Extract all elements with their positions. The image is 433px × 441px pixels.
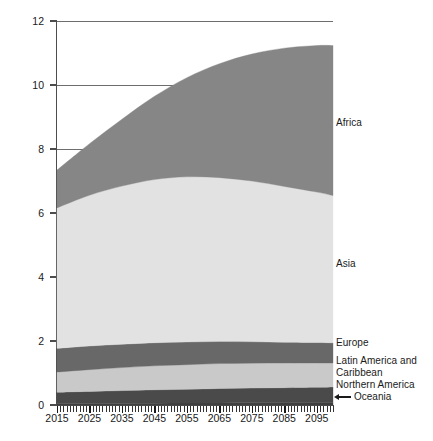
series-label-latin-america-and-caribbean: Latin America and Caribbean [336, 355, 417, 378]
x-axis-label-2095: 2095 [305, 412, 328, 424]
x-tick-2058 [197, 406, 198, 412]
x-tick-2066 [223, 406, 224, 412]
x-axis-label-2015: 2015 [45, 412, 68, 424]
x-tick-2060 [203, 406, 204, 412]
y-tick-2 [50, 340, 57, 341]
x-tick-2034 [119, 406, 120, 412]
x-tick-2077 [258, 406, 259, 412]
x-tick-2024 [86, 406, 87, 412]
x-tick-2063 [213, 406, 214, 412]
x-tick-2068 [229, 406, 230, 412]
x-tick-2093 [310, 406, 311, 412]
x-tick-2100 [333, 406, 334, 412]
x-tick-2027 [96, 406, 97, 412]
x-tick-2031 [109, 406, 110, 412]
x-tick-2039 [135, 406, 136, 412]
x-tick-2036 [125, 406, 126, 412]
x-tick-2056 [190, 406, 191, 412]
x-axis-label-2085: 2085 [273, 412, 296, 424]
x-tick-2061 [206, 406, 207, 412]
x-tick-2071 [239, 406, 240, 412]
x-tick-2038 [132, 406, 133, 412]
y-axis-label-12: 12 [32, 16, 44, 26]
x-tick-2049 [167, 406, 168, 412]
x-tick-2048 [164, 406, 165, 412]
x-tick-2037 [128, 406, 129, 412]
series-label-northern-america: Northern America [336, 379, 415, 391]
x-axis-label-2075: 2075 [240, 412, 263, 424]
y-tick-4 [50, 276, 57, 277]
series-label-oceania: Oceania [334, 391, 391, 403]
x-tick-2073 [245, 406, 246, 412]
x-tick-2094 [314, 406, 315, 412]
y-tick-6 [50, 212, 57, 213]
y-axis-label-6: 6 [38, 208, 44, 218]
y-axis-label-0: 0 [38, 400, 44, 410]
area-asia [57, 177, 333, 349]
x-tick-2070 [236, 406, 237, 412]
x-tick-2098 [327, 406, 328, 412]
x-tick-2018 [67, 406, 68, 412]
x-tick-2019 [70, 406, 71, 412]
x-tick-2042 [145, 406, 146, 412]
x-tick-2028 [99, 406, 100, 412]
x-tick-2069 [232, 406, 233, 412]
x-tick-2067 [226, 406, 227, 412]
y-axis-label-10: 10 [32, 80, 44, 90]
x-tick-2091 [304, 406, 305, 412]
series-label-africa: Africa [336, 117, 362, 129]
x-tick-2089 [297, 406, 298, 412]
x-tick-2088 [294, 406, 295, 412]
x-tick-2081 [271, 406, 272, 412]
x-tick-2074 [249, 406, 250, 412]
x-tick-2050 [171, 406, 172, 412]
x-tick-2033 [115, 406, 116, 412]
x-axis-label-2055: 2055 [175, 412, 198, 424]
x-tick-2087 [291, 406, 292, 412]
x-tick-2053 [180, 406, 181, 412]
x-tick-2043 [148, 406, 149, 412]
x-tick-2057 [193, 406, 194, 412]
series-label-europe: Europe [336, 337, 369, 349]
y-tick-8 [50, 148, 57, 149]
x-tick-2044 [151, 406, 152, 412]
y-axis-label-4: 4 [38, 272, 44, 282]
x-tick-2030 [106, 406, 107, 412]
x-tick-2016 [60, 406, 61, 412]
x-tick-2054 [184, 406, 185, 412]
x-tick-2084 [281, 406, 282, 412]
x-tick-2078 [262, 406, 263, 412]
x-tick-2046 [158, 406, 159, 412]
x-axis-label-2025: 2025 [78, 412, 101, 424]
x-tick-2072 [242, 406, 243, 412]
series-label-asia: Asia [336, 258, 356, 270]
y-tick-12 [50, 20, 57, 21]
series-label-oceania-text: Oceania [354, 391, 391, 403]
x-tick-2062 [210, 406, 211, 412]
x-tick-2076 [255, 406, 256, 412]
x-tick-2092 [307, 406, 308, 412]
x-tick-2059 [200, 406, 201, 412]
x-tick-2080 [268, 406, 269, 412]
x-tick-2017 [63, 406, 64, 412]
x-tick-2086 [288, 406, 289, 412]
x-tick-2064 [216, 406, 217, 412]
x-tick-2079 [265, 406, 266, 412]
y-tick-0 [50, 404, 57, 405]
x-axis-label-2065: 2065 [208, 412, 231, 424]
x-tick-2099 [330, 406, 331, 412]
x-tick-2041 [141, 406, 142, 412]
x-tick-2022 [80, 406, 81, 412]
x-tick-2026 [93, 406, 94, 412]
y-axis-label-2: 2 [38, 336, 44, 346]
stacked-area-series [57, 21, 333, 405]
x-axis-label-2035: 2035 [110, 412, 133, 424]
x-tick-2051 [174, 406, 175, 412]
x-tick-2047 [161, 406, 162, 412]
x-tick-2096 [320, 406, 321, 412]
left-arrow-icon [334, 393, 351, 400]
x-tick-2023 [83, 406, 84, 412]
y-tick-10 [50, 84, 57, 85]
x-tick-2082 [275, 406, 276, 412]
x-tick-2083 [278, 406, 279, 412]
